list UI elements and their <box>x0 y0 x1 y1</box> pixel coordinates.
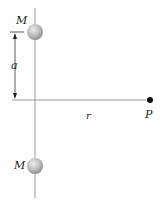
top-mass-label: M <box>15 14 28 27</box>
arrow-up-icon <box>13 33 17 39</box>
arrow-down-icon <box>13 93 17 99</box>
gravity-diagram: M a r P M <box>0 0 163 200</box>
point-p-dot <box>147 97 153 103</box>
distance-r-label: r <box>86 110 92 121</box>
point-p-label: P <box>144 108 153 121</box>
distance-a-label: a <box>11 59 18 72</box>
bottom-mass-sphere <box>27 158 43 174</box>
bottom-mass-label: M <box>13 159 26 172</box>
top-mass-sphere <box>27 24 43 40</box>
